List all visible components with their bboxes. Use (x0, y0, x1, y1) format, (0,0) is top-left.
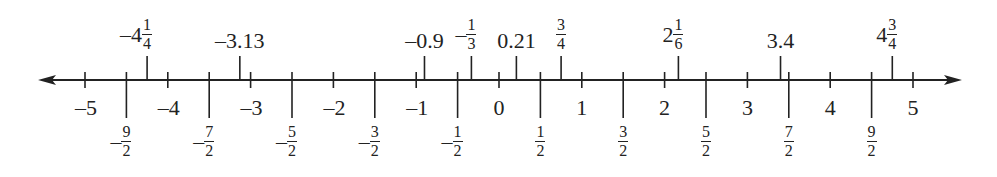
whole-part: –4 (120, 22, 142, 47)
integer-label: –4 (158, 97, 180, 119)
numerator: 1 (535, 124, 545, 142)
denominator: 2 (536, 142, 544, 159)
denominator: 2 (785, 142, 793, 159)
denominator: 4 (557, 35, 565, 52)
integer-label: –2 (323, 97, 345, 119)
numerator: 7 (784, 124, 794, 142)
numerator: 3 (370, 124, 380, 142)
fraction: 12 (535, 124, 545, 159)
numerator: 3 (618, 124, 628, 142)
denominator: 2 (288, 142, 296, 159)
fraction: 34 (887, 17, 897, 52)
fraction: 52 (287, 124, 297, 159)
integer-label: –1 (406, 97, 428, 119)
number-line-diagram: –5–4–3–2–1012345 –92–72–52–32–1212325272… (0, 0, 997, 177)
decimal-value: 3.4 (767, 28, 795, 53)
numerator: 5 (701, 124, 711, 142)
decimal-value: 0.21 (497, 28, 536, 53)
fraction: 13 (466, 17, 476, 52)
numerator: 5 (287, 124, 297, 142)
minus-sign: – (359, 129, 370, 154)
denominator: 6 (674, 35, 682, 52)
point-label: 34 (556, 17, 566, 52)
fraction: 16 (673, 17, 683, 52)
decimal-value: –0.9 (405, 28, 444, 53)
whole-part: 4 (876, 22, 887, 47)
fraction: 12 (453, 124, 463, 159)
point-label: –3.13 (215, 30, 265, 52)
decimal-value: –3.13 (215, 28, 265, 53)
integer-label: 0 (494, 97, 505, 119)
fraction: 72 (204, 124, 214, 159)
minus-sign: – (110, 129, 121, 154)
fraction: 32 (618, 124, 628, 159)
denominator: 2 (122, 142, 130, 159)
denominator: 2 (702, 142, 710, 159)
point-label: 216 (662, 17, 683, 52)
half-fraction-label: –92 (110, 124, 131, 159)
point-label: –414 (120, 17, 152, 52)
denominator: 3 (467, 35, 475, 52)
denominator: 2 (205, 142, 213, 159)
half-fraction-label: –32 (359, 124, 380, 159)
point-label: 434 (876, 17, 897, 52)
numerator: 3 (887, 17, 897, 35)
integer-label: 4 (825, 97, 836, 119)
fraction: 14 (142, 17, 152, 52)
numerator: 1 (453, 124, 463, 142)
denominator: 2 (619, 142, 627, 159)
half-fraction-label: –12 (442, 124, 463, 159)
numerator: 1 (673, 17, 683, 35)
denominator: 2 (868, 142, 876, 159)
half-fraction-label: 32 (618, 124, 628, 159)
half-fraction-label: –52 (276, 124, 297, 159)
minus-sign: – (193, 129, 204, 154)
whole-part: – (455, 22, 466, 47)
integer-label: –5 (75, 97, 97, 119)
half-fraction-label: 52 (701, 124, 711, 159)
numerator: 1 (466, 17, 476, 35)
fraction: 32 (370, 124, 380, 159)
minus-sign: – (276, 129, 287, 154)
point-label: –0.9 (405, 30, 444, 52)
minus-sign: – (442, 129, 453, 154)
fraction: 52 (701, 124, 711, 159)
half-fraction-label: 72 (784, 124, 794, 159)
half-fraction-label: 12 (535, 124, 545, 159)
numerator: 9 (867, 124, 877, 142)
denominator: 4 (143, 35, 151, 52)
whole-part: 2 (662, 22, 673, 47)
denominator: 2 (371, 142, 379, 159)
denominator: 2 (454, 142, 462, 159)
fraction: 72 (784, 124, 794, 159)
half-fraction-label: 92 (867, 124, 877, 159)
fraction: 34 (556, 17, 566, 52)
integer-label: 1 (576, 97, 587, 119)
numerator: 1 (142, 17, 152, 35)
numerator: 9 (121, 124, 131, 142)
numerator: 3 (556, 17, 566, 35)
point-label: –13 (455, 17, 476, 52)
point-label: 3.4 (767, 30, 795, 52)
integer-label: 3 (742, 97, 753, 119)
point-label: 0.21 (497, 30, 536, 52)
fraction: 92 (867, 124, 877, 159)
integer-label: –3 (241, 97, 263, 119)
numerator: 7 (204, 124, 214, 142)
denominator: 4 (888, 35, 896, 52)
integer-label: 5 (908, 97, 919, 119)
fraction: 92 (121, 124, 131, 159)
integer-label: 2 (659, 97, 670, 119)
half-fraction-label: –72 (193, 124, 214, 159)
